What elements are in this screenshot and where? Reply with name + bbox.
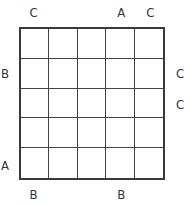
grid-cell-r4-c3[interactable] <box>106 148 134 178</box>
grid-cell-r2-c0[interactable] <box>21 89 49 119</box>
grid-cell-r0-c1[interactable] <box>49 29 77 59</box>
clue-top-3: A <box>117 5 125 20</box>
grid-cell-r3-c2[interactable] <box>78 118 106 148</box>
grid-cell-r1-c2[interactable] <box>78 59 106 89</box>
grid-cell-r1-c3[interactable] <box>106 59 134 89</box>
clue-left-4: A <box>1 157 9 172</box>
grid-cell-r1-c1[interactable] <box>49 59 77 89</box>
clue-right-1: C <box>176 65 184 80</box>
grid-cell-r1-c4[interactable] <box>135 59 163 89</box>
grid-cell-r0-c2[interactable] <box>78 29 106 59</box>
grid-cell-r1-c0[interactable] <box>21 59 49 89</box>
clue-bottom-3: B <box>117 187 125 202</box>
grid-cell-r2-c4[interactable] <box>135 89 163 119</box>
grid-cell-r2-c1[interactable] <box>49 89 77 119</box>
clue-left-1: B <box>1 65 9 80</box>
grid-cell-r3-c4[interactable] <box>135 118 163 148</box>
grid-cell-r0-c3[interactable] <box>106 29 134 59</box>
grid-cell-r2-c2[interactable] <box>78 89 106 119</box>
clue-right-2: C <box>176 96 184 111</box>
puzzle-grid <box>19 27 165 180</box>
grid-cell-r3-c3[interactable] <box>106 118 134 148</box>
grid-cell-r3-c0[interactable] <box>21 118 49 148</box>
grid-cell-r2-c3[interactable] <box>106 89 134 119</box>
grid-cell-r4-c4[interactable] <box>135 148 163 178</box>
grid-cell-r4-c2[interactable] <box>78 148 106 178</box>
grid-cell-r0-c4[interactable] <box>135 29 163 59</box>
grid-cell-r4-c0[interactable] <box>21 148 49 178</box>
grid-cell-r3-c1[interactable] <box>49 118 77 148</box>
clue-top-4: C <box>146 5 154 20</box>
clue-top-0: C <box>30 5 38 20</box>
clue-bottom-0: B <box>30 187 38 202</box>
grid-cell-r0-c0[interactable] <box>21 29 49 59</box>
grid-cell-r4-c1[interactable] <box>49 148 77 178</box>
